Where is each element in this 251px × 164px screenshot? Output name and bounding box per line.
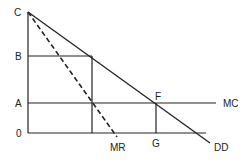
- label-f: F: [155, 91, 161, 102]
- label-a: A: [15, 98, 22, 109]
- label-c: C: [14, 7, 21, 18]
- mr-curve: [28, 12, 117, 137]
- label-b: B: [15, 51, 22, 62]
- label-mr: MR: [110, 142, 126, 153]
- label-g: G: [152, 138, 160, 149]
- label-dd: DD: [214, 142, 228, 153]
- monopoly-diagram: C B A 0 F G MC MR DD: [0, 0, 251, 164]
- demand-curve: [28, 12, 210, 143]
- label-origin: 0: [16, 128, 22, 139]
- label-mc: MC: [223, 98, 239, 109]
